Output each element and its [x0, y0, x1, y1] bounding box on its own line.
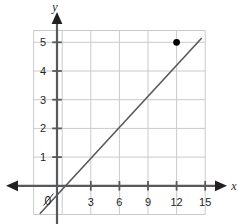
data-point-group [173, 39, 180, 46]
x-axis-label: x [230, 179, 237, 193]
y-tick-label-5: 5 [40, 36, 46, 48]
y-tick-label-1: 1 [40, 151, 46, 163]
x-tick-label-3: 3 [88, 196, 94, 208]
y-tick-label-3: 3 [40, 94, 46, 106]
y-tick-label-2: 2 [40, 122, 46, 134]
data-point-12-5 [173, 39, 180, 46]
origin-label: 0 [45, 194, 52, 208]
chart-background [0, 0, 244, 224]
coordinate-plane-chart: 3 6 9 12 15 1 2 3 4 5 0 x y [0, 0, 244, 224]
x-tick-label-9: 9 [145, 196, 151, 208]
x-tick-label-12: 12 [170, 196, 182, 208]
y-tick-label-4: 4 [40, 65, 46, 77]
x-tick-label-15: 15 [199, 196, 211, 208]
y-axis-label: y [51, 0, 58, 14]
chart-canvas: 3 6 9 12 15 1 2 3 4 5 0 x y [0, 0, 244, 224]
x-tick-label-6: 6 [116, 196, 122, 208]
